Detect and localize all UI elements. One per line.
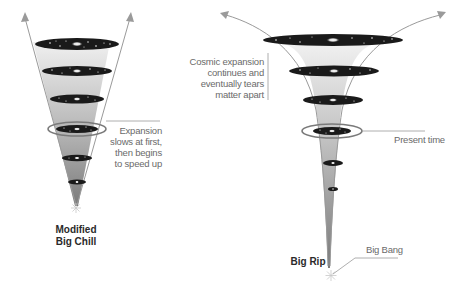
big-bang-leader-line [333,258,398,274]
annotation-line: Expansion [104,125,162,136]
galaxy-disk-icon [62,155,92,161]
galaxy-disk-icon [328,187,338,191]
annotation-line: to speed up [104,158,162,169]
big-chill-title: Modified Big Chill [46,224,106,248]
big-bang-sparkle-icon [71,203,81,213]
big-rip-title: Big Rip [290,256,326,268]
present-time-label: Present time [394,134,445,145]
annotation-line: eventually tears [180,78,264,89]
title-line: Big Chill [46,236,106,248]
arrow-up-left-icon [21,12,29,22]
big-bang-sparkle-icon [326,270,337,281]
annotation-line: Cosmic expansion [180,56,264,67]
galaxy-disk-icon [42,66,112,76]
annotation-line: slows at first, [104,136,162,147]
title-line: Modified [46,224,106,236]
galaxy-disk-icon [68,180,86,185]
galaxy-disk-icon [35,38,119,50]
big-bang-label: Big Bang [366,244,403,255]
arrow-up-right-icon [126,12,134,22]
galaxy-disk-icon [263,34,403,46]
galaxy-disk-icon [303,95,363,105]
big-chill-annotation: Expansion slows at first, then begins to… [104,125,162,169]
modified-big-chill-cone [21,12,160,213]
annotation-line: matter apart [180,89,264,100]
annotation-line: continues and [180,67,264,78]
big-rip-annotation: Cosmic expansion continues and eventuall… [180,56,264,100]
galaxy-disk-icon [56,125,98,133]
galaxy-disk-icon [289,66,379,77]
big-rip-cone [220,11,446,281]
galaxy-disk-icon [313,127,351,135]
galaxy-disk-icon [50,95,104,104]
annotation-line: then begins [104,147,162,158]
galaxy-disk-icon [323,160,343,166]
